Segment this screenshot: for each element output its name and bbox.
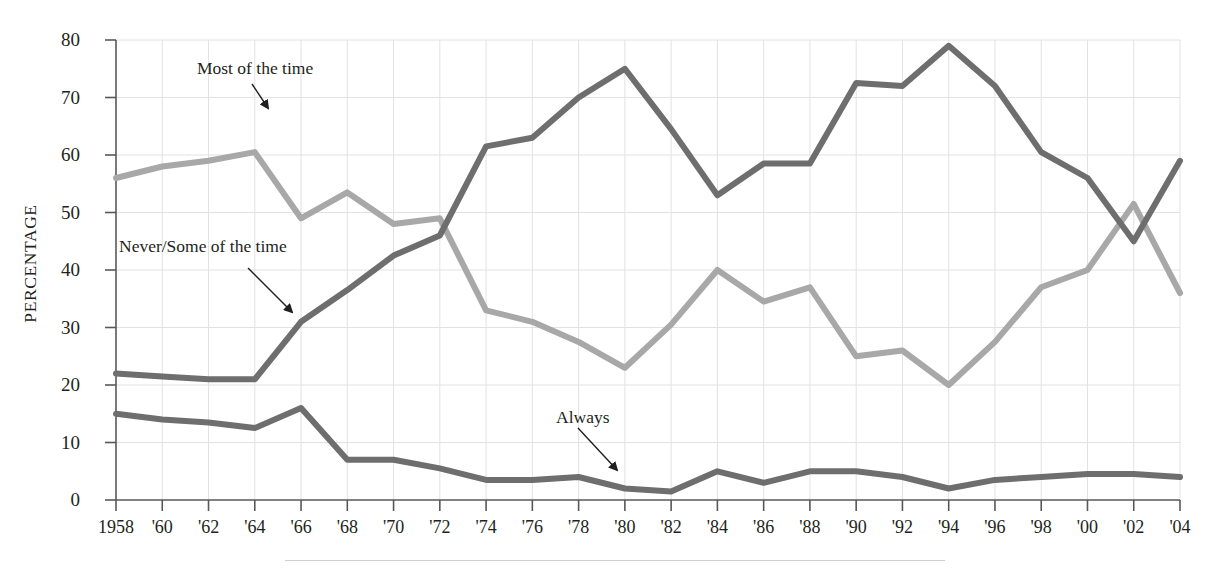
footer-rule	[285, 560, 945, 561]
axis-ticks	[105, 40, 1180, 511]
series-label-always: Always	[556, 409, 609, 427]
series-line-always	[116, 408, 1180, 491]
chart-figure: PERCENTAGE 01020304050607080 1958'60'62'…	[0, 0, 1208, 576]
series-label-most-of-the-time: Most of the time	[197, 60, 313, 78]
series-label-never-some-of-the-time: Never/Some of the time	[119, 238, 287, 256]
leader-always	[578, 428, 617, 470]
plot-area	[0, 0, 1208, 576]
series-lines	[116, 46, 1180, 492]
gridlines	[116, 40, 1180, 500]
